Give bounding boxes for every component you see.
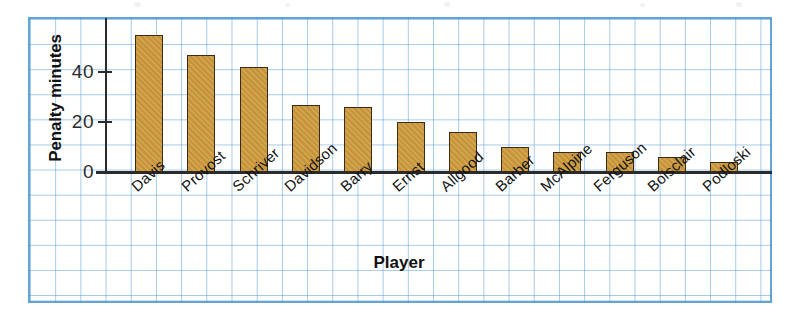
bar-chart: 40 20 0 Penalty minutes Player Davis Pro… — [0, 0, 798, 322]
x-category-ferguson: Ferguson — [590, 139, 650, 195]
y-axis-line — [105, 18, 107, 173]
x-category-podloski: Podloski — [699, 143, 754, 195]
y-tick-0 — [98, 171, 112, 173]
x-category-boisclair: Boisclair — [644, 143, 699, 195]
y-tick-20 — [98, 121, 112, 123]
y-tick-40 — [98, 71, 112, 73]
x-category-ernst: Ernst — [389, 158, 427, 195]
x-category-mcalpine: McAlpine — [537, 140, 595, 195]
y-axis-title: Penalty minutes — [46, 8, 66, 188]
x-category-barry: Barry — [337, 157, 376, 194]
x-axis-title: Player — [0, 253, 798, 273]
bar-davis[interactable] — [135, 35, 163, 173]
